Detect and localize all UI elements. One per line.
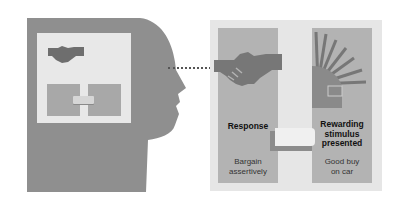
- reward-description: Good buy on car: [312, 157, 372, 176]
- mini-connector: [73, 96, 94, 104]
- response-description-line2: assertively: [218, 167, 278, 177]
- dotted-line: [168, 67, 215, 69]
- reward-title: Rewarding stimulus presented: [312, 120, 372, 149]
- response-description-line1: Bargain: [218, 157, 278, 167]
- sunburst-car-icon: [312, 28, 372, 108]
- reward-description-line1: Good buy: [312, 157, 372, 167]
- response-title: Response: [218, 122, 278, 132]
- connector-arrow: [275, 128, 315, 146]
- reward-description-line2: on car: [312, 167, 372, 177]
- handshake-icon: [48, 44, 84, 64]
- reward-title-line3: presented: [312, 139, 372, 149]
- response-description: Bargain assertively: [218, 157, 278, 176]
- handshake-icon: [214, 48, 282, 90]
